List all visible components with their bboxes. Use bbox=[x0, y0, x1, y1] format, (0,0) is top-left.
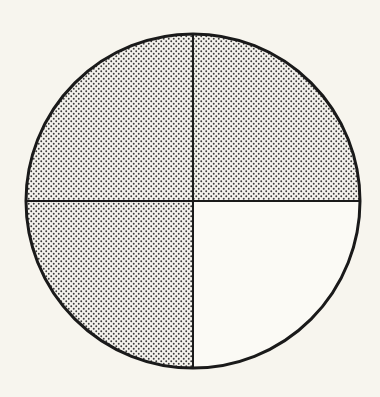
fraction-circle-diagram bbox=[0, 0, 380, 397]
circle-figure bbox=[0, 0, 380, 397]
quadrant-top-left-shaded bbox=[26, 34, 193, 201]
quadrant-bottom-left-shaded bbox=[26, 201, 193, 368]
quadrant-top-right-shaded bbox=[193, 34, 360, 201]
quadrant-bottom-right-unshaded bbox=[193, 201, 360, 368]
